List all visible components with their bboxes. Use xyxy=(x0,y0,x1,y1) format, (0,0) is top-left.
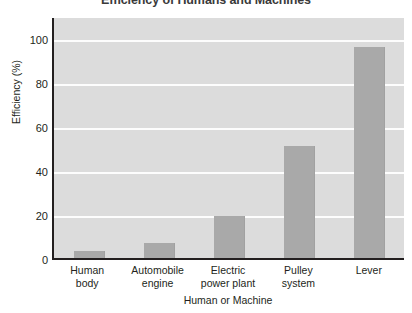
bar-slot xyxy=(54,18,124,258)
x-axis-tick-labels: HumanbodyAutomobileengineElectricpower p… xyxy=(52,264,404,290)
x-tick-label: Lever xyxy=(334,264,404,290)
bar-slot xyxy=(194,18,264,258)
x-tick-label: Automobileengine xyxy=(122,264,192,290)
y-tick-label: 20 xyxy=(8,210,48,222)
bar[interactable] xyxy=(214,216,245,258)
x-tick-label-line2: system xyxy=(263,277,333,290)
x-tick-label-line1: Electric xyxy=(211,264,245,276)
bar[interactable] xyxy=(354,47,385,258)
y-axis-tick-labels: 020406080100 xyxy=(8,18,48,260)
bar[interactable] xyxy=(74,251,105,258)
y-tick-label: 0 xyxy=(8,254,48,266)
bar-slot xyxy=(124,18,194,258)
y-tick-label: 60 xyxy=(8,122,48,134)
x-tick-label: Pulleysystem xyxy=(263,264,333,290)
y-tick-label: 100 xyxy=(8,34,48,46)
bar-series xyxy=(54,18,404,258)
bar-slot xyxy=(334,18,404,258)
chart-title: Efficiency of Humans and Machines xyxy=(0,0,412,7)
y-tick-label: 80 xyxy=(8,78,48,90)
bar[interactable] xyxy=(284,146,315,258)
x-tick-label-line1: Automobile xyxy=(131,264,184,276)
x-tick-label-line1: Pulley xyxy=(284,264,313,276)
x-tick-label-line2: body xyxy=(52,277,122,290)
bar[interactable] xyxy=(144,243,175,258)
x-axis-title: Human or Machine xyxy=(52,294,404,306)
x-tick-label-line2: power plant xyxy=(193,277,263,290)
plot-area xyxy=(52,18,404,260)
x-tick-label-line1: Lever xyxy=(356,264,382,276)
x-tick-label: Humanbody xyxy=(52,264,122,290)
x-tick-label-line2: engine xyxy=(122,277,192,290)
x-tick-label: Electricpower plant xyxy=(193,264,263,290)
x-tick-label-line1: Human xyxy=(70,264,104,276)
bar-slot xyxy=(264,18,334,258)
y-tick-label: 40 xyxy=(8,166,48,178)
